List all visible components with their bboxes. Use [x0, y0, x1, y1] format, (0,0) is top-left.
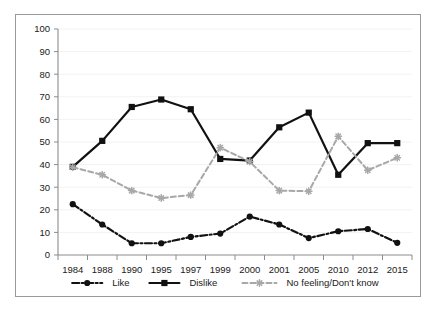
- data-point: [335, 172, 341, 178]
- data-point: [129, 104, 135, 110]
- data-point: [129, 187, 135, 193]
- y-axis-label: 70: [39, 91, 50, 102]
- data-point: [247, 213, 253, 219]
- x-axis-label: 1997: [180, 264, 201, 275]
- y-axis-label: 60: [39, 114, 50, 125]
- data-point: [335, 133, 341, 139]
- y-axis-label: 40: [39, 159, 50, 170]
- y-axis-label: 30: [39, 182, 50, 193]
- y-axis-label: 80: [39, 69, 50, 80]
- data-point: [365, 226, 371, 232]
- legend-label: Like: [112, 277, 129, 288]
- data-point: [217, 156, 223, 162]
- data-point: [188, 106, 194, 112]
- x-axis-label: 1999: [210, 264, 231, 275]
- y-axis-label: 50: [39, 136, 50, 147]
- series-3: [70, 133, 401, 201]
- x-axis-label: 1984: [62, 264, 83, 275]
- legend-item[interactable]: Like: [72, 277, 129, 288]
- data-point: [70, 164, 76, 170]
- chart-plot-area: 0102030405060708090100198419881990199519…: [16, 15, 422, 298]
- data-point: [158, 96, 164, 102]
- series-2: [70, 96, 401, 177]
- legend-marker: [161, 280, 167, 286]
- legend-item[interactable]: No feeling/Don't know: [243, 277, 379, 288]
- data-point: [70, 201, 76, 207]
- data-point: [394, 140, 400, 146]
- data-point: [276, 187, 282, 193]
- x-axis-label: 2005: [298, 264, 319, 275]
- legend-marker: [256, 280, 262, 286]
- data-point: [306, 110, 312, 116]
- series-line: [73, 100, 398, 175]
- x-axis-label: 2012: [357, 264, 378, 275]
- x-axis-label: 2010: [328, 264, 349, 275]
- legend-label: No feeling/Don't know: [287, 277, 379, 288]
- data-point: [217, 230, 223, 236]
- data-point: [276, 124, 282, 130]
- legend-label: Dislike: [189, 277, 217, 288]
- y-axis-label: 90: [39, 46, 50, 57]
- x-axis-label: 2000: [239, 264, 260, 275]
- data-point: [188, 192, 194, 198]
- data-point: [335, 228, 341, 234]
- x-axis-label: 2015: [387, 264, 408, 275]
- data-point: [365, 140, 371, 146]
- data-point: [306, 235, 312, 241]
- legend-marker: [84, 280, 90, 286]
- data-point: [365, 167, 371, 173]
- data-point: [217, 144, 223, 150]
- data-point: [394, 240, 400, 246]
- data-point: [99, 138, 105, 144]
- data-point: [99, 221, 105, 227]
- x-axis-label: 2001: [269, 264, 290, 275]
- y-axis-label: 10: [39, 227, 50, 238]
- chart-frame: 0102030405060708090100198419881990199519…: [15, 14, 421, 297]
- data-point: [247, 158, 253, 164]
- data-point: [158, 240, 164, 246]
- y-axis-label: 100: [34, 23, 50, 34]
- data-point: [394, 155, 400, 161]
- data-point: [158, 195, 164, 201]
- x-axis-label: 1988: [92, 264, 113, 275]
- legend-item[interactable]: Dislike: [149, 277, 217, 288]
- series-line: [73, 136, 398, 198]
- line-chart: 0102030405060708090100198419881990199519…: [16, 15, 422, 298]
- x-axis-label: 1990: [121, 264, 142, 275]
- chart-legend: LikeDislikeNo feeling/Don't know: [72, 277, 379, 288]
- data-point: [129, 240, 135, 246]
- x-axis-label: 1995: [151, 264, 172, 275]
- data-point: [99, 172, 105, 178]
- data-point: [276, 221, 282, 227]
- series-1: [70, 201, 401, 246]
- data-point: [188, 234, 194, 240]
- y-axis-label: 0: [45, 249, 50, 260]
- y-axis-label: 20: [39, 204, 50, 215]
- data-point: [306, 188, 312, 194]
